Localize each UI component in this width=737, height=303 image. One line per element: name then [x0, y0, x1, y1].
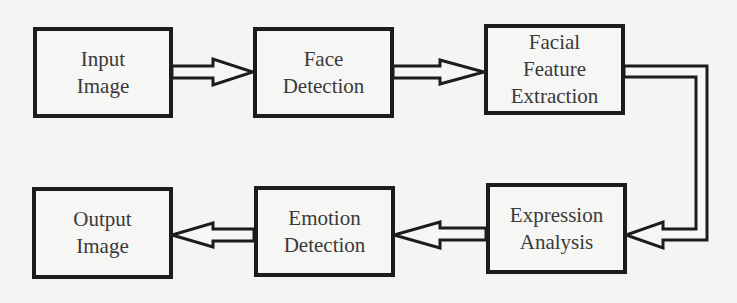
node-label-line: Image: [77, 73, 129, 100]
node-emotion-detection: Emotion Detection: [254, 186, 395, 277]
arrow-feature-to-expression: [624, 66, 707, 248]
arrow-emotion-to-output: [172, 223, 254, 247]
node-label-line: Emotion: [288, 205, 360, 232]
arrow-face-to-feature: [393, 60, 484, 84]
node-label-line: Detection: [283, 73, 365, 100]
node-face-detection: Face Detection: [253, 27, 394, 118]
node-input-image: Input Image: [33, 27, 173, 118]
node-label-line: Input: [81, 46, 125, 73]
node-label-line: Detection: [284, 232, 366, 259]
arrow-input-to-face: [172, 59, 253, 85]
node-label-line: Output: [73, 206, 131, 233]
node-label-line: Extraction: [511, 83, 598, 110]
node-label-line: Image: [76, 233, 128, 260]
node-expression-analysis: Expression Analysis: [486, 183, 627, 274]
node-output-image: Output Image: [32, 187, 173, 279]
node-label-line: Facial: [529, 29, 580, 56]
node-label-line: Expression: [510, 202, 603, 229]
node-facial-feature-extraction: Facial Feature Extraction: [484, 24, 625, 115]
node-label-line: Analysis: [520, 229, 594, 256]
node-label-line: Face: [304, 46, 344, 73]
node-label-line: Feature: [523, 56, 586, 83]
arrow-expression-to-emotion: [394, 222, 486, 248]
